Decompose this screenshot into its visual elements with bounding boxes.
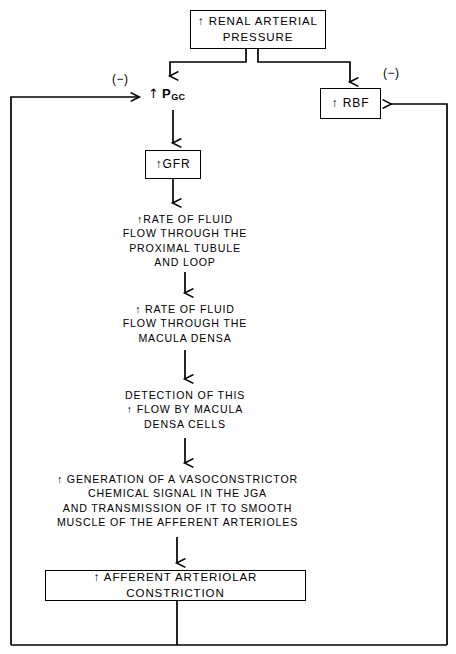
node-detection-macula-densa-cells: DETECTION OF THIS ↑ FLOW BY MACULA DENSA… (80, 388, 290, 431)
box-afferent-arteriolar-constriction: ↑ AFFERENT ARTERIOLAR CONSTRICTION (45, 570, 306, 601)
feedback-label-right-negative: (−) (383, 66, 400, 80)
box-afferent-arteriolar-constriction-label: ↑ AFFERENT ARTERIOLAR CONSTRICTION (46, 570, 305, 600)
node-vasoconstrictor-generation: ↑ GENERATION OF A VASOCONSTRICTOR CHEMIC… (35, 472, 320, 529)
box-gfr: ↑GFR (145, 150, 201, 179)
node-rate-flow-macula-densa: ↑ RATE OF FLUID FLOW THROUGH THE MACULA … (85, 302, 285, 345)
node-rate-flow-proximal-tubule: ↑RATE OF FLUID FLOW THROUGH THE PROXIMAL… (85, 212, 285, 269)
up-arrow-icon: ↑ (148, 86, 159, 101)
pgc-subscript: GC (171, 92, 185, 102)
pgc-symbol: P (162, 86, 171, 101)
flowchart-canvas: ↑ RENAL ARTERIAL PRESSURE ↑ RBF ↑GFR ↑PG… (0, 0, 456, 654)
box-renal-arterial-pressure: ↑ RENAL ARTERIAL PRESSURE (190, 10, 326, 49)
box-gfr-label: ↑GFR (156, 157, 191, 173)
box-rbf-label: ↑ RBF (332, 96, 370, 112)
node-glomerular-capillary-pressure: ↑PGC (148, 86, 186, 102)
feedback-label-left-negative: (−) (112, 72, 129, 86)
box-rbf: ↑ RBF (320, 88, 381, 119)
box-renal-arterial-pressure-label: ↑ RENAL ARTERIAL PRESSURE (198, 14, 318, 44)
